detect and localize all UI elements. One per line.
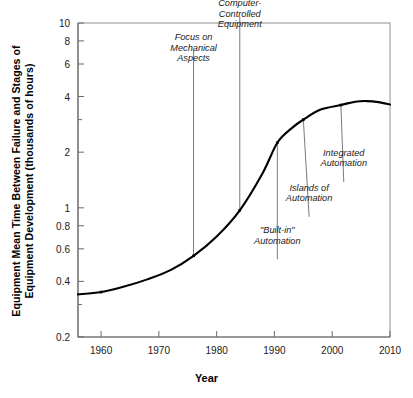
y-tick-label: 2: [30, 147, 70, 158]
y-tick-label: 4: [30, 91, 70, 102]
annotation-line: Mechanical: [170, 43, 216, 54]
y-axis-title-line-1: Equipment Mean Time Between Failure and …: [10, 16, 23, 346]
data-point-marker: [100, 291, 103, 294]
annotation-line: "Built-in": [254, 225, 300, 236]
y-tick-label: 0.6: [30, 243, 70, 254]
x-axis-title: Year: [0, 372, 413, 384]
x-tick-label: 1970: [148, 345, 170, 356]
data-point-marker: [238, 209, 241, 212]
annotation-line: Automation: [286, 193, 332, 204]
x-tick-label: 1990: [263, 345, 285, 356]
data-point-marker: [192, 255, 195, 258]
chart-figure: Equipment Mean Time Between Failure and …: [0, 0, 413, 398]
y-tick-label: 0.2: [30, 332, 70, 343]
y-tick-label: 6: [30, 59, 70, 70]
data-point-marker: [302, 118, 305, 121]
annotation-line: Controlled: [218, 9, 262, 20]
x-tick-label: 1980: [206, 345, 228, 356]
y-tick-label: 1: [30, 202, 70, 213]
x-tick-label: 2010: [379, 345, 401, 356]
x-tick-label: 1960: [90, 345, 112, 356]
annotation-integrated-automation: IntegratedAutomation: [321, 148, 367, 169]
data-point-marker: [276, 141, 279, 144]
annotation-line: Islands of: [286, 183, 332, 194]
y-tick-label: 8: [30, 35, 70, 46]
y-tick-label: 0.4: [30, 276, 70, 287]
y-tick-label: 0.8: [30, 220, 70, 231]
axes-frame: [78, 23, 390, 337]
data-point-marker: [340, 104, 343, 107]
annotation-computer-controlled-equipment: Computer-ControlledEquipment: [218, 0, 262, 30]
annotation-line: Automation: [254, 236, 300, 247]
y-tick-label: 10: [30, 18, 70, 29]
data-line-equipment-mtbf: [78, 101, 390, 294]
annotation-line: Integrated: [321, 148, 367, 159]
annotation-line: Automation: [321, 158, 367, 169]
annotation-line: Focus on: [170, 32, 216, 43]
annotation-built-in-automation: "Built-in"Automation: [254, 225, 300, 246]
annotation-line: Computer-: [218, 0, 262, 9]
x-tick-label: 2000: [321, 345, 343, 356]
annotation-line: Aspects: [170, 53, 216, 64]
annotation-line: Equipment: [218, 19, 262, 30]
annotation-focus-on-mechanical-aspects: Focus onMechanicalAspects: [170, 32, 216, 64]
annotation-leader-line: [341, 105, 344, 182]
annotation-islands-of-automation: Islands ofAutomation: [286, 183, 332, 204]
